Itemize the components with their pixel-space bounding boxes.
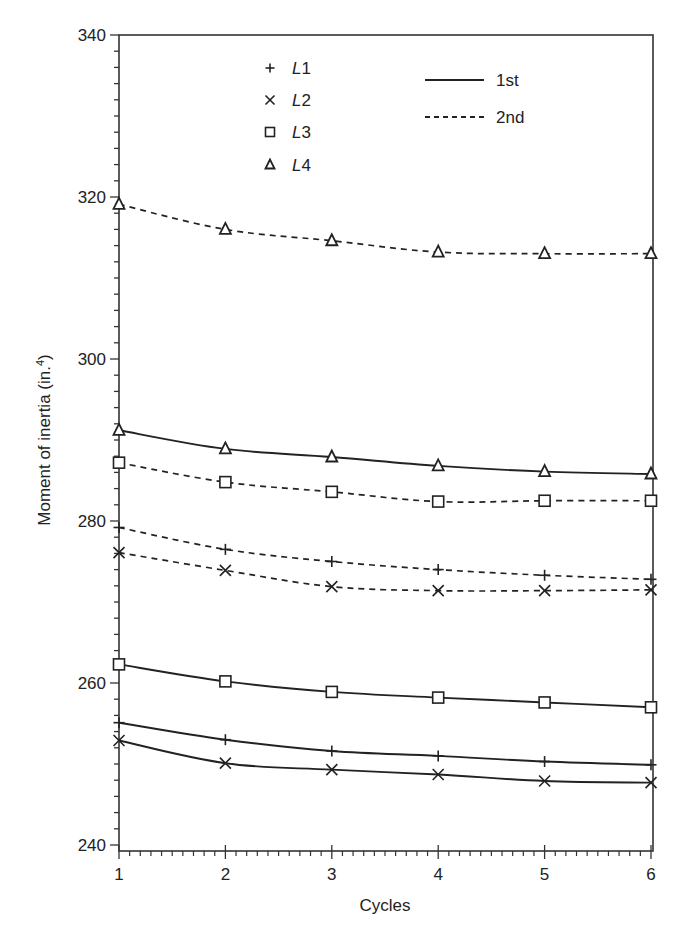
plus-marker-icon <box>539 570 550 581</box>
triangle-marker-icon <box>646 247 657 258</box>
series-l1-2nd <box>114 522 657 585</box>
triangle-shape <box>266 160 275 169</box>
series-l4-1st <box>114 424 657 479</box>
square-shape <box>646 495 657 506</box>
square-marker-icon <box>220 676 231 687</box>
plus-marker-icon <box>114 717 125 728</box>
y-axis-title: Moment of inertia (in.4) <box>34 354 54 525</box>
square-marker-icon <box>646 702 657 713</box>
legend-label-prefix: L <box>292 123 301 142</box>
series-line <box>119 463 651 502</box>
legend-label: L4 <box>292 156 311 175</box>
triangle-marker-icon <box>266 160 275 169</box>
plus-marker-icon <box>266 64 275 73</box>
series-l2-1st <box>114 735 657 788</box>
plus-marker-icon <box>433 750 444 761</box>
square-marker-icon <box>433 496 444 507</box>
series-line <box>119 430 651 474</box>
legend-label-prefix: L <box>292 156 301 175</box>
chart-container: 240260280300320340123456 L1L2L3L41st2nd … <box>0 0 695 950</box>
plus-marker-icon <box>433 564 444 575</box>
series-l4-2nd <box>114 198 657 258</box>
triangle-marker-icon <box>539 247 550 258</box>
plus-marker-icon <box>220 544 231 555</box>
square-shape <box>433 496 444 507</box>
moment-of-inertia-chart: 240260280300320340123456 L1L2L3L41st2nd … <box>0 0 695 950</box>
square-shape <box>433 692 444 703</box>
plus-marker-icon <box>114 522 125 533</box>
legend-item-1st: 1st <box>425 71 519 90</box>
legend-label: 2nd <box>496 108 524 127</box>
square-marker-icon <box>266 128 275 137</box>
y-tick-label: 340 <box>78 26 106 45</box>
cross-marker-icon <box>266 96 275 105</box>
x-tick-label: 5 <box>540 865 549 884</box>
y-tick-label: 240 <box>78 836 106 855</box>
square-shape <box>114 457 125 468</box>
triangle-shape <box>220 223 231 234</box>
series-l2-2nd <box>114 547 657 596</box>
series-line <box>119 741 651 783</box>
y-tick-label: 280 <box>78 512 106 531</box>
x-tick-label: 6 <box>646 865 655 884</box>
square-shape <box>539 697 550 708</box>
legend-item-l3: L3 <box>266 123 311 142</box>
square-marker-icon <box>326 486 337 497</box>
legend-item-l4: L4 <box>266 156 311 175</box>
series-line <box>119 553 651 591</box>
series-l3-2nd <box>114 457 657 507</box>
legend-label-number: 4 <box>301 156 310 175</box>
square-marker-icon <box>114 659 125 670</box>
triangle-marker-icon <box>220 223 231 234</box>
triangle-shape <box>114 424 125 435</box>
y-tick-label: 260 <box>78 674 106 693</box>
legend-label-prefix: L <box>292 91 301 110</box>
legend-label: L3 <box>292 123 311 142</box>
y-tick-label: 300 <box>78 350 106 369</box>
square-shape <box>220 477 231 488</box>
triangle-shape <box>646 247 657 258</box>
square-shape <box>539 495 550 506</box>
legend-label-number: 1 <box>301 59 310 78</box>
square-marker-icon <box>646 495 657 506</box>
square-marker-icon <box>433 692 444 703</box>
plus-marker-icon <box>646 759 657 770</box>
x-tick-label: 3 <box>327 865 336 884</box>
legend-label: 1st <box>496 71 519 90</box>
plus-marker-icon <box>539 756 550 767</box>
cross-marker-icon <box>433 585 444 596</box>
plus-marker-icon <box>220 734 231 745</box>
legend-item-l1: L1 <box>266 59 311 78</box>
square-shape <box>326 486 337 497</box>
triangle-shape <box>539 247 550 258</box>
legend-item-2nd: 2nd <box>425 108 524 127</box>
series-l1-1st <box>114 717 657 770</box>
plus-marker-icon <box>646 574 657 585</box>
axes: 240260280300320340123456 <box>78 26 656 884</box>
square-shape <box>266 128 275 137</box>
series-layer <box>114 198 657 788</box>
legend: L1L2L3L41st2nd <box>266 59 525 175</box>
legend-label: L2 <box>292 91 311 110</box>
plus-marker-icon <box>326 556 337 567</box>
square-shape <box>114 659 125 670</box>
triangle-shape <box>114 198 125 209</box>
legend-label-number: 3 <box>301 123 310 142</box>
legend-label: L1 <box>292 59 311 78</box>
legend-label-number: 2 <box>301 91 310 110</box>
x-axis-title: Cycles <box>359 896 410 915</box>
square-marker-icon <box>326 686 337 697</box>
legend-label-prefix: L <box>292 59 301 78</box>
square-marker-icon <box>539 495 550 506</box>
square-shape <box>220 676 231 687</box>
y-axis-title-main: Moment of inertia (in. <box>35 366 54 526</box>
series-line <box>119 527 651 579</box>
square-marker-icon <box>539 697 550 708</box>
x-tick-label: 2 <box>221 865 230 884</box>
series-l3-1st <box>114 659 657 713</box>
plus-marker-icon <box>326 746 337 757</box>
x-tick-label: 1 <box>114 865 123 884</box>
square-marker-icon <box>220 477 231 488</box>
square-marker-icon <box>114 457 125 468</box>
series-line <box>119 664 651 707</box>
